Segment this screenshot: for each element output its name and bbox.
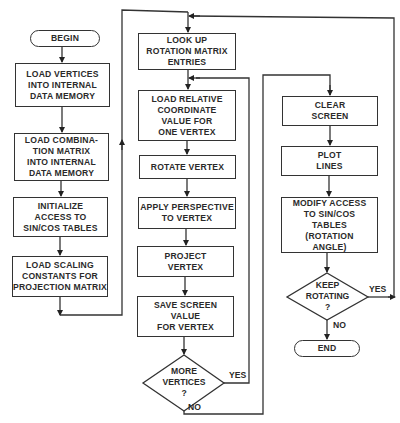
save-screen-step: SAVE SCREEN VALUE FOR VERTEX bbox=[137, 296, 234, 337]
load-combination-step: LOAD COMBINA- TION MATRIX INTO INTERNAL … bbox=[14, 133, 109, 181]
rotate-vertex-step: ROTATE VERTEX bbox=[139, 155, 236, 179]
load-scaling-step: LOAD SCALING CONSTANTS FOR PROJECTION MA… bbox=[12, 256, 108, 297]
end-terminal: END bbox=[294, 340, 360, 357]
flowchart-canvas: BEGIN LOAD VERTICES INTO INTERNAL DATA M… bbox=[0, 0, 400, 423]
lookup-rotation-step: LOOK UP ROTATION MATRIX ENTRIES bbox=[138, 33, 236, 70]
keep-rotating-decision: KEEP ROTATING ? bbox=[287, 280, 368, 313]
load-relative-step: LOAD RELATIVE COORDINATE VALUE FOR ONE V… bbox=[138, 90, 236, 141]
begin-terminal: BEGIN bbox=[30, 30, 100, 47]
project-vertex-step: PROJECT VERTEX bbox=[137, 246, 234, 277]
more-vertices-yes-label: YES bbox=[229, 370, 246, 380]
initialize-access-step: INITIALIZE ACCESS TO SIN/COS TABLES bbox=[13, 197, 108, 237]
plot-lines-step: PLOT LINES bbox=[281, 146, 378, 176]
keep-rotating-no-label: NO bbox=[333, 320, 346, 330]
more-vertices-decision: MORE VERTICES ? bbox=[144, 366, 224, 399]
apply-perspective-step: APPLY PERSPECTIVE TO VERTEX bbox=[138, 197, 236, 229]
load-vertices-step: LOAD VERTICES INTO INTERNAL DATA MEMORY bbox=[15, 63, 110, 107]
keep-rotating-yes-label: YES bbox=[369, 284, 386, 294]
more-vertices-no-label: NO bbox=[188, 402, 201, 412]
modify-access-step: MODIFY ACCESS TO SIN/COS TABLES (ROTATIO… bbox=[281, 197, 378, 253]
clear-screen-step: CLEAR SCREEN bbox=[282, 96, 378, 126]
